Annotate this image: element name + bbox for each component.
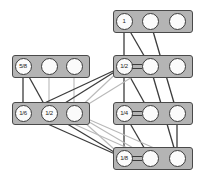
equals-connector <box>132 64 142 65</box>
equals-connector <box>132 68 142 69</box>
node-label: 1/2 <box>45 110 52 116</box>
node[interactable] <box>169 150 186 167</box>
node[interactable] <box>66 105 83 122</box>
node[interactable] <box>142 105 159 122</box>
node[interactable] <box>169 58 186 75</box>
node[interactable] <box>169 13 186 30</box>
node[interactable] <box>142 13 159 30</box>
node[interactable] <box>142 58 159 75</box>
labeled-node[interactable]: 1/8 <box>116 150 133 167</box>
equals-connector <box>132 156 142 157</box>
node[interactable] <box>169 105 186 122</box>
labeled-node[interactable]: 1/2 <box>116 58 133 75</box>
diagram-canvas: 15/81/21/61/21/41/8 <box>0 0 199 177</box>
labeled-node[interactable]: 1/4 <box>116 105 133 122</box>
equals-connector <box>132 111 142 112</box>
labeled-node[interactable]: 1/2 <box>41 105 58 122</box>
node-label: 1 <box>122 18 125 24</box>
labeled-node[interactable]: 1/6 <box>15 105 32 122</box>
node[interactable] <box>142 150 159 167</box>
node[interactable] <box>66 58 83 75</box>
node[interactable] <box>41 58 58 75</box>
node-label: 1/2 <box>120 63 127 69</box>
equals-connector <box>132 115 142 116</box>
node-label: 1/6 <box>19 110 26 116</box>
node-label: 1/8 <box>120 155 127 161</box>
equals-connector <box>132 160 142 161</box>
labeled-node[interactable]: 1 <box>116 13 133 30</box>
labeled-node[interactable]: 5/8 <box>15 58 32 75</box>
node-label: 1/4 <box>120 110 127 116</box>
node-label: 5/8 <box>19 63 26 69</box>
